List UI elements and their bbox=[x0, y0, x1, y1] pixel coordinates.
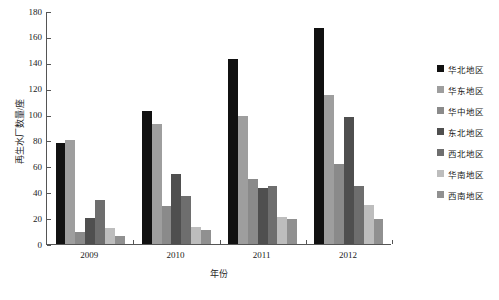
x-axis-tick-mark bbox=[306, 240, 307, 244]
y-axis-tick-mark bbox=[47, 90, 51, 91]
bar bbox=[162, 206, 172, 244]
bars-layer bbox=[47, 12, 391, 244]
y-axis-tick-mark bbox=[47, 38, 51, 39]
bar bbox=[191, 227, 201, 244]
legend-swatch-icon bbox=[437, 65, 444, 72]
bar bbox=[374, 219, 384, 244]
y-axis-tick-label: 120 bbox=[16, 85, 42, 94]
bar bbox=[268, 186, 278, 244]
legend-item[interactable]: 华中地区 bbox=[437, 100, 499, 121]
bar bbox=[171, 174, 181, 244]
y-axis-tick-mark bbox=[47, 116, 51, 117]
legend-swatch-icon bbox=[437, 128, 444, 135]
legend-swatch-icon bbox=[437, 170, 444, 177]
legend-item[interactable]: 西南地区 bbox=[437, 184, 499, 205]
bar bbox=[75, 232, 85, 244]
y-axis-tick-label: 100 bbox=[16, 111, 42, 120]
bar bbox=[238, 116, 248, 244]
legend-swatch-icon bbox=[437, 149, 444, 156]
bar bbox=[354, 186, 364, 244]
y-axis-tick-mark bbox=[47, 193, 51, 194]
legend-item-label: 华北地区 bbox=[448, 63, 484, 75]
y-axis-tick-label: 40 bbox=[16, 189, 42, 198]
legend-item-label: 东北地区 bbox=[448, 126, 484, 138]
x-axis-tick-label: 2011 bbox=[232, 250, 292, 260]
x-axis-title: 年份 bbox=[46, 267, 391, 280]
y-axis-tick-label: 20 bbox=[16, 215, 42, 224]
legend-swatch-icon bbox=[437, 86, 444, 93]
legend-swatch-icon bbox=[437, 191, 444, 198]
bar bbox=[152, 124, 162, 244]
legend-item-label: 华南地区 bbox=[448, 168, 484, 180]
y-axis-tick-label: 140 bbox=[16, 59, 42, 68]
bar bbox=[344, 117, 354, 244]
bar bbox=[364, 205, 374, 244]
legend-item-label: 华中地区 bbox=[448, 105, 484, 117]
bar bbox=[115, 236, 125, 244]
x-axis-tick-mark bbox=[133, 240, 134, 244]
bar bbox=[105, 228, 115, 244]
legend-item[interactable]: 华南地区 bbox=[437, 163, 499, 184]
bar bbox=[228, 59, 238, 244]
bar bbox=[334, 164, 344, 244]
legend: 华北地区华东地区华中地区东北地区西北地区华南地区西南地区 bbox=[437, 58, 499, 205]
legend-swatch-icon bbox=[437, 107, 444, 114]
y-axis-tick-label: 0 bbox=[16, 241, 42, 250]
bar bbox=[181, 196, 191, 244]
y-axis-tick-label: 180 bbox=[16, 8, 42, 17]
legend-item[interactable]: 华东地区 bbox=[437, 79, 499, 100]
y-axis-tick-mark bbox=[47, 219, 51, 220]
bar bbox=[142, 111, 152, 244]
x-axis-tick-label: 2009 bbox=[59, 250, 119, 260]
y-axis-tick-mark bbox=[47, 12, 51, 13]
bar bbox=[95, 200, 105, 244]
y-axis-tick-labels: 020406080100120140160180 bbox=[12, 0, 42, 300]
plot-area bbox=[46, 12, 391, 245]
bar bbox=[324, 95, 334, 244]
bar bbox=[258, 188, 268, 244]
y-axis-tick-mark bbox=[47, 64, 51, 65]
legend-item-label: 西北地区 bbox=[448, 147, 484, 159]
y-axis-tick-mark bbox=[47, 245, 51, 246]
bar bbox=[56, 143, 66, 244]
x-axis-tick-mark bbox=[220, 240, 221, 244]
legend-item-label: 西南地区 bbox=[448, 189, 484, 201]
x-axis-tick-mark bbox=[392, 240, 393, 244]
bar bbox=[248, 179, 258, 244]
legend-item[interactable]: 西北地区 bbox=[437, 142, 499, 163]
bar bbox=[287, 219, 297, 244]
y-axis-tick-mark bbox=[47, 167, 51, 168]
y-axis-tick-mark bbox=[47, 141, 51, 142]
legend-item[interactable]: 东北地区 bbox=[437, 121, 499, 142]
bar bbox=[85, 218, 95, 244]
bar bbox=[314, 28, 324, 244]
legend-item-label: 华东地区 bbox=[448, 84, 484, 96]
legend-item[interactable]: 华北地区 bbox=[437, 58, 499, 79]
y-axis-tick-label: 160 bbox=[16, 33, 42, 42]
y-axis-tick-label: 60 bbox=[16, 163, 42, 172]
bar bbox=[201, 230, 211, 244]
bar bbox=[65, 140, 75, 244]
x-axis-tick-label: 2012 bbox=[318, 250, 378, 260]
y-axis-tick-label: 80 bbox=[16, 137, 42, 146]
bar-chart: 再生水厂数量/座 020406080100120140160180 200920… bbox=[0, 0, 499, 300]
x-axis-tick-label: 2010 bbox=[145, 250, 205, 260]
bar bbox=[277, 217, 287, 244]
